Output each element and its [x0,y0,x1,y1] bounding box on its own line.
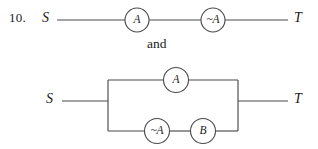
switch-not-a[interactable]: ~A [201,8,225,32]
series-circuit: A~A [57,8,288,32]
switch-a[interactable]: A [125,8,149,32]
switch-a-label: A [132,13,141,25]
switch-not-a-label: ~A [150,124,164,136]
switch-a-label: A [171,73,180,85]
circuit-diagram: A~A A~AB [0,0,318,149]
exercise-figure: 10. S T and S T A~A A~AB [0,0,318,149]
switch-b[interactable]: B [191,119,216,144]
switch-not-a[interactable]: ~A [145,119,170,144]
switch-b-label: B [199,124,206,136]
switch-not-a-label: ~A [206,13,220,25]
parallel-circuit: A~AB [62,68,288,144]
switch-a[interactable]: A [164,68,189,93]
